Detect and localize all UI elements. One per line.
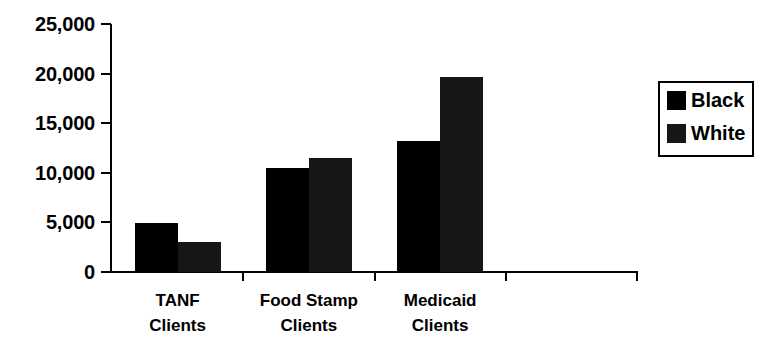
- category-label-line1: Food Stamp: [260, 291, 358, 310]
- x-axis-tick: [242, 271, 244, 281]
- category-label-medicaid-clients: MedicaidClients: [350, 288, 530, 338]
- y-axis-tick: [101, 221, 111, 223]
- y-axis-tick: [101, 172, 111, 174]
- y-axis-tick-label: 5,000: [0, 212, 95, 232]
- y-axis-tick: [101, 23, 111, 25]
- y-axis-tick-label: 25,000: [0, 14, 95, 34]
- bar-white-medicaid-clients: [440, 77, 483, 272]
- bar-white-tanf-clients: [178, 242, 221, 272]
- legend: Black White: [658, 81, 754, 157]
- y-axis-tick-label: 15,000: [0, 113, 95, 133]
- legend-item-black: Black: [667, 90, 744, 110]
- x-axis-tick: [636, 271, 638, 281]
- y-axis-tick: [101, 73, 111, 75]
- category-label-line1: TANF: [156, 291, 200, 310]
- bar-black-medicaid-clients: [397, 141, 440, 272]
- y-axis-line: [110, 24, 112, 272]
- bar-black-food-stamp-clients: [266, 168, 309, 272]
- legend-label-black: Black: [691, 90, 744, 110]
- y-axis-tick-label: 0: [0, 262, 95, 282]
- category-label-line1: Medicaid: [404, 291, 477, 310]
- bar-white-food-stamp-clients: [309, 158, 352, 272]
- white-swatch-icon: [667, 124, 686, 143]
- legend-item-white: White: [667, 123, 745, 143]
- bar-chart: 05,00010,00015,00020,00025,000 TANFClien…: [0, 0, 762, 354]
- bar-black-tanf-clients: [135, 223, 178, 272]
- legend-label-white: White: [691, 123, 745, 143]
- x-axis-tick: [374, 271, 376, 281]
- category-label-line2: Clients: [350, 313, 530, 338]
- black-swatch-icon: [667, 91, 686, 110]
- y-axis-tick-label: 20,000: [0, 64, 95, 84]
- y-axis-tick-label: 10,000: [0, 163, 95, 183]
- x-axis-tick: [505, 271, 507, 281]
- y-axis-tick: [101, 122, 111, 124]
